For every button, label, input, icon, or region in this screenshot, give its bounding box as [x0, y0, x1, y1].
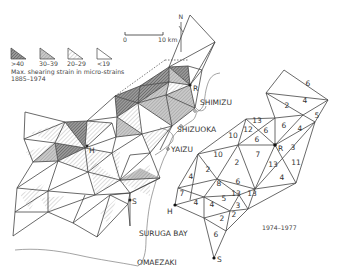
strain-value: 4	[298, 124, 303, 133]
legend-swatch-lt19	[97, 48, 112, 59]
shimizu-marker-icon	[194, 110, 197, 113]
station-h-left: H	[89, 146, 95, 155]
legend: >40 30–39 20–29 <19 Max. shearing strain…	[11, 48, 124, 82]
strain-value: 13	[231, 189, 241, 198]
place-suruga-bay: SURUGA BAY	[139, 229, 188, 238]
station-h-left-icon	[86, 145, 89, 148]
station-r-right: R	[278, 144, 283, 153]
strain-value: 6	[236, 177, 241, 186]
place-shizuoka: SHIZUOKA	[177, 125, 217, 134]
strain-value: 7	[256, 150, 261, 159]
strain-value: 3	[236, 201, 241, 210]
strain-value: 4	[210, 200, 215, 209]
strain-value: 12	[243, 125, 253, 134]
strain-value: 7	[180, 189, 185, 198]
strain-value: 2	[220, 214, 225, 223]
legend-swatch-20-29	[68, 48, 83, 59]
strain-value: 13	[247, 189, 257, 198]
strain-value: 2	[235, 158, 240, 167]
legend-label-30-39: 30–39	[39, 60, 58, 67]
strain-map: >40 30–39 20–29 <19 Max. shearing strain…	[0, 0, 338, 280]
place-yaizu: YAIZU	[170, 145, 193, 154]
strain-value: 8	[217, 179, 222, 188]
station-r-right-icon	[273, 143, 277, 147]
strain-value: 6	[214, 230, 219, 239]
station-r-left-icon	[188, 83, 191, 86]
strain-value: 2	[285, 101, 290, 110]
scale-bar: 0 10 km	[123, 32, 177, 43]
station-h-right: H	[167, 207, 173, 216]
station-s-right: S	[217, 255, 222, 264]
legend-period: 1885–1974	[11, 75, 46, 82]
strain-value: 13	[268, 160, 278, 169]
strain-value: 11	[291, 158, 301, 167]
strain-value: 2	[232, 210, 237, 219]
strain-value: 13	[252, 116, 262, 125]
legend-swatch-30-39	[40, 48, 55, 59]
strain-value: 6	[264, 126, 269, 135]
station-h-right-icon	[173, 203, 176, 206]
station-s-left: S	[132, 197, 137, 206]
right-network-period: 1974–1977	[262, 224, 297, 231]
strain-value: 6	[282, 121, 287, 130]
strain-value: 6	[306, 79, 311, 88]
strain-value: 10	[228, 131, 238, 140]
strain-value: 4	[280, 173, 285, 182]
strain-value: 10	[213, 150, 223, 159]
legend-label-gt40: >40	[11, 60, 24, 67]
scale-start: 0	[123, 36, 127, 43]
station-s-right-icon	[212, 256, 215, 259]
station-r-left: R	[193, 84, 198, 93]
strain-value: 4	[189, 172, 194, 181]
legend-label-20-29: 20–29	[67, 60, 86, 67]
scale-end: 10 km	[158, 36, 177, 43]
legend-label-lt19: <19	[97, 60, 110, 67]
place-shimizu: SHIMIZU	[200, 98, 232, 107]
strain-value: 4	[194, 198, 199, 207]
strain-value: 5	[315, 111, 320, 120]
strain-value: 4	[303, 96, 308, 105]
legend-swatch-gt40	[11, 48, 26, 59]
place-omaezaki: OMAEZAKI	[137, 258, 177, 267]
strain-value: 6	[255, 135, 260, 144]
strain-value: 2	[206, 165, 211, 174]
north-label: N	[179, 13, 184, 20]
strain-value: 5	[222, 194, 227, 203]
strain-value: 3	[291, 143, 296, 152]
